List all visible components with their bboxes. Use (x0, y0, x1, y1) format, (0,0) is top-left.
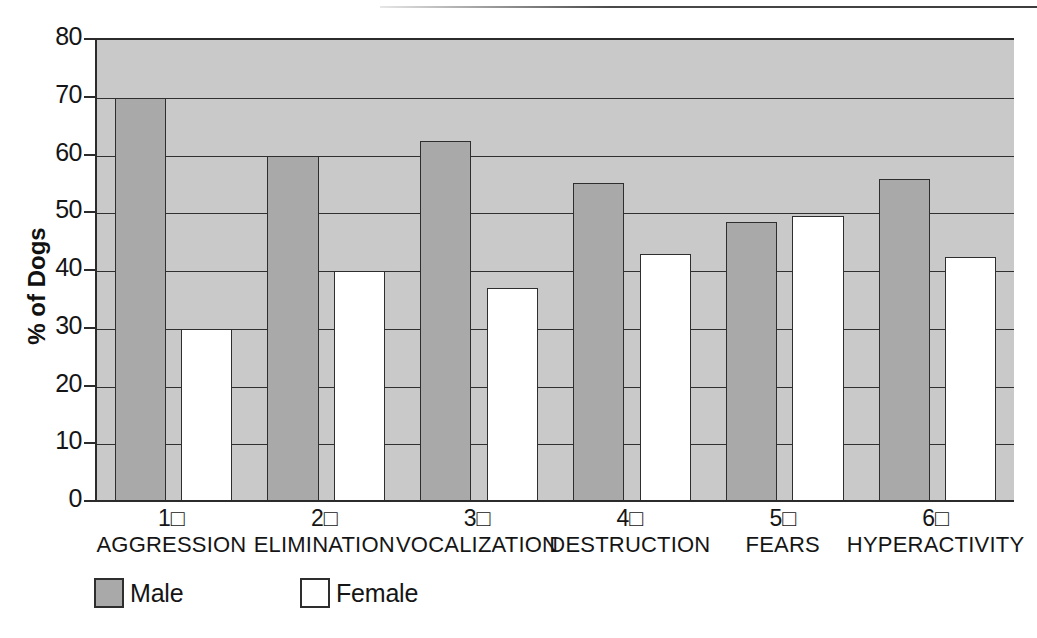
y-axis-tick-label: 80 (16, 22, 82, 51)
legend-swatch-male (94, 578, 124, 608)
y-axis-tick (84, 154, 95, 156)
y-axis-tick (84, 269, 95, 271)
gridline (97, 98, 1014, 99)
bar-female-aggression (181, 329, 232, 502)
y-axis-tick-label: 70 (16, 80, 82, 109)
legend-swatch-female (300, 578, 330, 608)
bar-female-elimination (334, 271, 385, 502)
y-axis-tick (84, 442, 95, 444)
x-axis-group-name: HYPERACTIVITY (821, 532, 1037, 558)
bar-chart-figure: % of Dogs 80706050403020100 1□AGGRESSION… (0, 0, 1037, 638)
bar-male-fears (726, 222, 777, 502)
y-axis-tick-label: 60 (16, 138, 82, 167)
bar-female-vocalization (487, 288, 538, 502)
legend-entry-male[interactable]: Male (94, 578, 183, 608)
y-axis-tick (84, 385, 95, 387)
gridline (97, 329, 1014, 330)
y-axis-tick-label: 20 (16, 369, 82, 398)
y-axis-tick-label: 30 (16, 311, 82, 340)
bar-female-fears (792, 216, 843, 502)
bar-female-destruction (640, 254, 691, 502)
y-axis-tick (84, 96, 95, 98)
legend-label-male: Male (130, 579, 183, 608)
bar-male-elimination (267, 156, 318, 503)
bar-male-aggression (115, 98, 166, 502)
legend-entry-female[interactable]: Female (300, 578, 418, 608)
gridline (97, 213, 1014, 214)
y-axis-tick-label: 10 (16, 426, 82, 455)
gridline (97, 444, 1014, 445)
gridline (97, 156, 1014, 157)
x-axis-line (93, 500, 1014, 502)
bar-male-hyperactivity (879, 179, 930, 502)
legend-label-female: Female (336, 579, 418, 608)
y-axis-tick-label: 50 (16, 195, 82, 224)
bar-male-vocalization (420, 141, 471, 502)
page-top-rule (380, 6, 1037, 8)
gridline (97, 271, 1014, 272)
gridline (97, 387, 1014, 388)
x-axis-group-label: 6□HYPERACTIVITY (821, 505, 1037, 558)
bar-female-hyperactivity (945, 257, 996, 502)
bar-male-destruction (573, 183, 624, 502)
plot-area (95, 38, 1014, 502)
y-axis-tick (84, 327, 95, 329)
y-axis-tick (84, 211, 95, 213)
y-axis-tick (84, 38, 95, 40)
x-axis-labels: 1□AGGRESSION2□ELIMINATION3□VOCALIZATION4… (95, 505, 1012, 575)
x-axis-group-number: 6□ (821, 505, 1037, 532)
y-axis-tick-label: 40 (16, 253, 82, 282)
